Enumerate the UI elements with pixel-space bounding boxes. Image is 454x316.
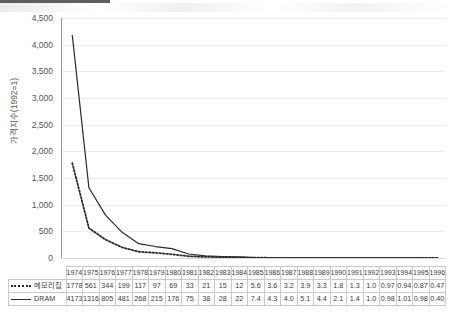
- table-year-header: 1983: [215, 267, 232, 280]
- table-corner-cell: [9, 267, 67, 280]
- y-tick-label: 3,000: [32, 94, 53, 103]
- table-cell: 0.40: [429, 293, 446, 306]
- table-cell: 481: [116, 293, 133, 306]
- legend-key-dram-icon: [11, 299, 31, 300]
- legend-key-memory-chip-icon: [11, 285, 31, 287]
- table-cell: 0.98: [380, 293, 397, 306]
- table-cell: 4.0: [281, 293, 298, 306]
- y-tick-label: 0: [48, 254, 53, 263]
- table-year-header: 1996: [429, 267, 446, 280]
- table-cell: 0.97: [380, 280, 397, 293]
- plot-area: [61, 18, 446, 258]
- table-cell: 97: [149, 280, 166, 293]
- table-cell: 3.9: [297, 280, 314, 293]
- table-cell: 4.4: [314, 293, 331, 306]
- table-cell: 0.94: [396, 280, 413, 293]
- table-cell: 1778: [66, 280, 83, 293]
- table-cell: 117: [132, 280, 149, 293]
- table-year-header: 1993: [380, 267, 397, 280]
- y-tick-label: 2,500: [32, 120, 53, 129]
- table-cell: 1316: [83, 293, 100, 306]
- table-cell: 2.1: [330, 293, 347, 306]
- table-cell: 1.8: [330, 280, 347, 293]
- y-tick-label: 4,000: [32, 40, 53, 49]
- table-cell: 199: [116, 280, 133, 293]
- table-year-header: 1985: [248, 267, 265, 280]
- table-cell: 28: [215, 293, 232, 306]
- table-cell: 21: [198, 280, 215, 293]
- x-axis-line: [61, 258, 446, 259]
- y-axis-line: [61, 18, 62, 258]
- table-year-header: 1988: [297, 267, 314, 280]
- table-cell: 1.3: [347, 280, 364, 293]
- table-year-header: 1987: [281, 267, 298, 280]
- table-year-header: 1975: [83, 267, 100, 280]
- table-cell: 561: [83, 280, 100, 293]
- table-row-header: DRAM: [9, 293, 67, 306]
- table-cell: 5.1: [297, 293, 314, 306]
- table-cell: 38: [198, 293, 215, 306]
- table-year-header: 1994: [396, 267, 413, 280]
- table-cell: 1.4: [347, 293, 364, 306]
- legend-label: 메모리칩: [34, 280, 62, 292]
- table-year-header: 1981: [182, 267, 199, 280]
- table-cell: 1.0: [363, 293, 380, 306]
- table-year-header: 1977: [116, 267, 133, 280]
- y-axis-tick-labels: 4,5004,0003,5003,0002,5002,0001,5001,000…: [0, 18, 57, 258]
- table-year-header: 1992: [363, 267, 380, 280]
- table-cell: 176: [165, 293, 182, 306]
- table-year-header: 1984: [231, 267, 248, 280]
- table-year-header: 1982: [198, 267, 215, 280]
- series-line-memory-chip: [72, 163, 437, 258]
- table-cell: 15: [215, 280, 232, 293]
- y-tick-label: 1,500: [32, 174, 53, 183]
- table-row: 메모리칩17785613441991179769332115125.63.63.…: [9, 280, 446, 293]
- table-row: DRAM41731316805481268215176753828227.44.…: [9, 293, 446, 306]
- table-cell: 75: [182, 293, 199, 306]
- table-cell: 344: [99, 280, 116, 293]
- table-year-header: 1979: [149, 267, 166, 280]
- table-cell: 12: [231, 280, 248, 293]
- table-cell: 0.47: [429, 280, 446, 293]
- data-table: 1974197519761977197819791980198119821983…: [8, 266, 446, 306]
- table-year-header: 1976: [99, 267, 116, 280]
- table-cell: 3.6: [264, 280, 281, 293]
- table-cell: 1.01: [396, 293, 413, 306]
- table-cell: 3.2: [281, 280, 298, 293]
- table-cell: 0.98: [413, 293, 430, 306]
- table-year-header: 1989: [314, 267, 331, 280]
- series-line-dram: [72, 35, 437, 258]
- series-lines: [61, 18, 446, 258]
- y-tick-label: 3,500: [32, 67, 53, 76]
- table-year-header: 1980: [165, 267, 182, 280]
- table-cell: 805: [99, 293, 116, 306]
- y-tick-label: 1,000: [32, 200, 53, 209]
- table-row-header: 메모리칩: [9, 280, 67, 293]
- y-tick-label: 4,500: [32, 14, 53, 23]
- table-year-header: 1995: [413, 267, 430, 280]
- table-header-row: 1974197519761977197819791980198119821983…: [9, 267, 446, 280]
- legend-label: DRAM: [34, 293, 55, 305]
- table-cell: 215: [149, 293, 166, 306]
- table-cell: 7.4: [248, 293, 265, 306]
- table-year-header: 1990: [330, 267, 347, 280]
- y-tick-label: 2,000: [32, 147, 53, 156]
- table-cell: 4.3: [264, 293, 281, 306]
- table-year-header: 1978: [132, 267, 149, 280]
- chart-figure: 가격지수(1992=1) 4,5004,0003,5003,0002,5002,…: [0, 0, 454, 316]
- table-cell: 0.87: [413, 280, 430, 293]
- table-cell: 5.6: [248, 280, 265, 293]
- table-year-header: 1986: [264, 267, 281, 280]
- table-year-header: 1991: [347, 267, 364, 280]
- table-cell: 4173: [66, 293, 83, 306]
- table-year-header: 1974: [66, 267, 83, 280]
- table-body: 메모리칩17785613441991179769332115125.63.63.…: [9, 280, 446, 306]
- table-cell: 3.3: [314, 280, 331, 293]
- table-cell: 33: [182, 280, 199, 293]
- y-tick-label: 500: [39, 227, 53, 236]
- table-cell: 22: [231, 293, 248, 306]
- scan-artifact-band: [0, 3, 454, 12]
- table-cell: 69: [165, 280, 182, 293]
- table-cell: 268: [132, 293, 149, 306]
- table-cell: 1.0: [363, 280, 380, 293]
